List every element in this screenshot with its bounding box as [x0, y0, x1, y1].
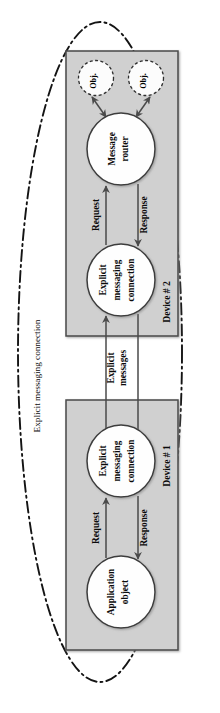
edge-d2-request-label: Request	[91, 198, 101, 231]
node-obj-2-label: Obj.	[139, 73, 148, 89]
diagram-canvas: Explicit messaging connection Device # 2…	[0, 0, 220, 713]
explicit-messaging-diagram: Explicit messaging connection Device # 2…	[0, 0, 220, 713]
node-message-router-label-line1: Message	[107, 132, 117, 166]
edge-explicit-messages-label-line1: Explicit	[106, 352, 116, 384]
node-emc2-label-line2: messaging	[112, 259, 122, 300]
node-emc2-label-line3: connection	[126, 258, 136, 302]
edge-d1-response-label: Response	[139, 509, 149, 546]
node-application-object-label-line2: object	[120, 579, 130, 604]
device-1-label: Device # 1	[161, 445, 172, 487]
node-emc1-label-line2: messaging	[112, 440, 122, 481]
edge-d2-response-label: Response	[139, 196, 149, 233]
outer-boundary-label: Explicit messaging connection	[32, 319, 42, 432]
edge-explicit-messages-label-line2: messages	[118, 350, 128, 387]
node-emc2-label-line1: Explicit	[98, 264, 108, 296]
node-emc1-label-line1: Explicit	[98, 445, 108, 477]
edge-d1-request-label: Request	[91, 511, 101, 544]
node-obj-1-label: Obj.	[89, 73, 98, 89]
device-2-label: Device # 2	[161, 281, 172, 323]
node-application-object-label-line1: Application	[106, 568, 116, 615]
node-emc1-label-line3: connection	[126, 439, 136, 483]
node-message-router-label-line2: router	[120, 136, 130, 161]
